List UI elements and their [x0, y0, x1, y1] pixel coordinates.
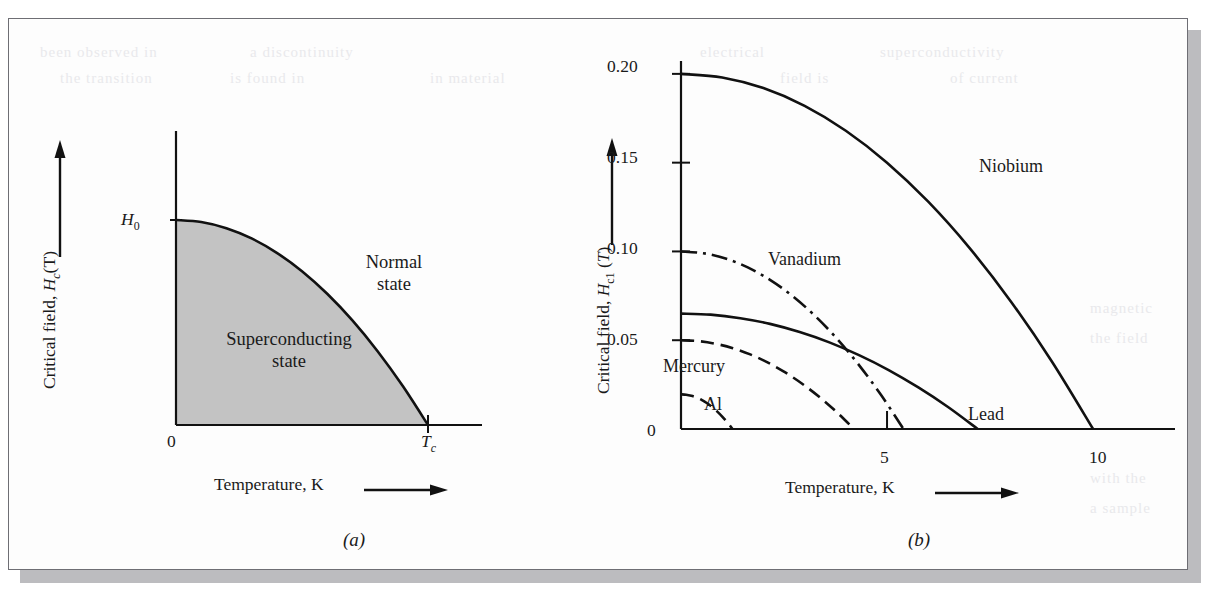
panel-b-xtick-5: 5 — [880, 447, 889, 468]
panel-a-y-axis-title: Critical field, Hc(T) — [39, 251, 64, 389]
panel-b-plot-area — [659, 57, 1179, 477]
panel-b-x-axis-arrow — [935, 483, 1025, 503]
panel-a-x-axis-arrow — [364, 480, 454, 500]
panel-a-y-axis-title-symbol: H — [39, 279, 59, 292]
panel-b-ytick-0: 0 — [647, 420, 656, 441]
normal-state-line1: Normal — [366, 252, 423, 272]
panel-a-y-axis-title-subscript: c — [49, 273, 63, 278]
panel-a-tc-label: Tc — [421, 431, 436, 456]
panel-a-y-axis-arrow — [45, 139, 75, 259]
panel-a: Critical field, Hc(T) H0 0 — [9, 19, 569, 571]
figure-shadow-right — [1188, 30, 1201, 582]
superconducting-state-line2: state — [272, 351, 306, 371]
panel-a-caption: (a) — [309, 529, 399, 551]
curve-label-mercury: Mercury — [663, 356, 725, 377]
curve-label-al: Al — [704, 394, 722, 415]
panel-b-y-axis-title-symbol: H — [593, 284, 613, 297]
panel-a-origin-label: 0 — [167, 431, 176, 452]
panel-b-ytick-0.10: 0.10 — [607, 238, 638, 259]
panel-a-h0-label: H0 — [121, 209, 140, 234]
curve-lead — [681, 314, 978, 429]
panel-b-ytick-0.20: 0.20 — [607, 56, 638, 77]
panel-b-xtick-10: 10 — [1089, 447, 1107, 468]
panel-b-y-axis-title: Critical field, Hc1 (T) — [593, 247, 618, 394]
panel-b-y-axis-title-subscript: c1 — [603, 272, 617, 283]
normal-state-label: Normal state — [324, 252, 464, 296]
curve-mercury — [681, 340, 854, 429]
figure-shadow-bottom — [20, 570, 1201, 583]
panel-b-ytick-0.05: 0.05 — [607, 329, 638, 350]
panel-a-y-axis-title-prefix: Critical field, — [39, 291, 59, 389]
curve-label-vanadium: Vanadium — [768, 249, 841, 270]
curve-label-niobium: Niobium — [979, 156, 1043, 177]
curve-niobium — [681, 74, 1093, 429]
panel-b-caption: (b) — [874, 529, 964, 551]
figure-frame: Critical field, Hc(T) H0 0 — [8, 18, 1188, 570]
panel-b-x-axis-title: Temperature, K — [785, 477, 895, 498]
normal-state-line2: state — [377, 274, 411, 294]
superconducting-region-shape — [176, 220, 428, 425]
panel-b-ytick-0.15: 0.15 — [607, 147, 638, 168]
panel-a-x-axis-title: Temperature, K — [214, 474, 324, 495]
superconducting-state-line1: Superconducting — [226, 329, 351, 349]
panel-b: Critical field, Hc1 (T) 0.20 0.15 0.10 0… — [569, 19, 1189, 571]
curve-label-lead: Lead — [968, 404, 1004, 425]
superconducting-state-label: Superconducting state — [184, 329, 394, 373]
